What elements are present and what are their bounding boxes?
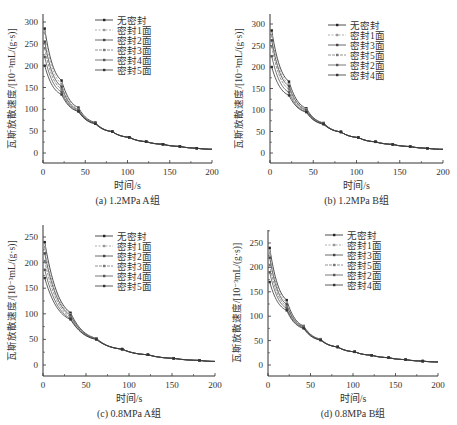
data-point-marker — [60, 79, 62, 81]
chart-b: 050100150200050100150200250300时间/s瓦斯放散速度… — [228, 0, 457, 212]
legend-entry: 密封4面 — [350, 70, 385, 81]
data-point-marker — [44, 252, 46, 254]
data-point-marker — [288, 85, 290, 87]
legend-entry: 无密封 — [350, 20, 380, 31]
legend-entry: 密封2面 — [117, 35, 152, 46]
legend-entry: 密封1面 — [350, 30, 385, 41]
data-point-marker — [409, 145, 411, 147]
y-tick-label: 250 — [25, 232, 39, 242]
legend-entry: 密封2面 — [347, 270, 382, 281]
x-tick-label: 200 — [431, 380, 445, 390]
data-point-marker — [269, 281, 271, 283]
data-point-marker — [43, 47, 45, 49]
y-tick-label: 200 — [252, 62, 266, 72]
data-point-marker — [320, 339, 322, 341]
data-point-marker — [422, 360, 424, 362]
data-point-marker — [269, 256, 271, 258]
data-point-marker — [288, 80, 290, 82]
y-tick-label: 150 — [250, 287, 264, 297]
data-point-marker — [269, 247, 271, 249]
data-point-marker — [269, 252, 271, 254]
data-point-marker — [388, 356, 390, 358]
data-point-marker — [305, 111, 307, 113]
chart-a: 050100150200050100150200250300时间/s瓦斯放散速度… — [0, 0, 228, 212]
data-point-marker — [303, 327, 305, 329]
y-tick-label: 250 — [252, 41, 266, 51]
x-tick-label: 200 — [436, 167, 450, 177]
y-tick-label: 250 — [250, 238, 264, 248]
x-tick-label: 100 — [122, 380, 136, 390]
y-tick-label: 100 — [25, 104, 39, 114]
x-tick-label: 200 — [208, 380, 222, 390]
x-tick-label: 0 — [266, 380, 271, 390]
data-point-marker — [111, 130, 113, 132]
data-point-marker — [60, 83, 62, 85]
x-tick-label: 50 — [81, 167, 91, 177]
data-point-marker — [288, 94, 290, 96]
panel-caption: (d) 0.8MPa B组 — [321, 407, 386, 420]
legend-entry: 密封2面 — [350, 60, 385, 71]
data-point-marker — [354, 351, 356, 353]
y-tick-label: 50 — [29, 334, 39, 344]
x-tick-label: 100 — [346, 380, 360, 390]
y-tick-label: 50 — [29, 126, 39, 136]
y-axis-label: 瓦斯放散速度/[10⁻³mL/(g·s)] — [6, 240, 18, 360]
chart-panel-b: 050100150200050100150200250300时间/s瓦斯放散速度… — [228, 0, 457, 212]
y-tick-label: 150 — [25, 283, 39, 293]
data-point-marker — [286, 299, 288, 301]
legend-entry: 密封5面 — [117, 281, 152, 292]
data-point-marker — [145, 140, 147, 142]
data-point-marker — [43, 56, 45, 58]
data-point-marker — [288, 88, 290, 90]
data-point-marker — [44, 241, 46, 243]
y-tick-label: 100 — [25, 309, 39, 319]
legend-entry: 密封1面 — [117, 241, 152, 252]
legend-entry: 密封4面 — [347, 280, 382, 291]
data-point-marker — [405, 358, 407, 360]
legend-entry: 密封3面 — [117, 45, 152, 56]
data-point-marker — [43, 40, 45, 42]
legend: 无密封密封1面密封3面密封5面密封2面密封4面 — [325, 230, 382, 291]
chart-c: 050100150200050100150200250时间/s瓦斯放散速度/[1… — [0, 212, 228, 425]
data-point-marker — [196, 147, 198, 149]
data-point-marker — [271, 45, 273, 47]
y-tick-label: 0 — [34, 148, 39, 158]
data-point-marker — [286, 309, 288, 311]
data-point-marker — [173, 357, 175, 359]
data-point-marker — [340, 131, 342, 133]
y-tick-label: 100 — [252, 105, 266, 115]
data-point-marker — [60, 85, 62, 87]
x-tick-label: 0 — [41, 167, 46, 177]
data-point-marker — [162, 143, 164, 145]
data-point-marker — [322, 123, 324, 125]
y-tick-label: 0 — [34, 360, 39, 370]
x-tick-label: 0 — [268, 167, 273, 177]
data-point-marker — [374, 141, 376, 143]
x-tick-label: 150 — [163, 167, 177, 177]
x-tick-label: 100 — [350, 167, 364, 177]
x-tick-label: 150 — [393, 167, 407, 177]
chart-panel-c: 050100150200050100150200250时间/s瓦斯放散速度/[1… — [0, 212, 228, 425]
data-point-marker — [44, 246, 46, 248]
x-tick-label: 150 — [389, 380, 403, 390]
y-tick-label: 0 — [259, 360, 264, 370]
data-point-marker — [60, 93, 62, 95]
data-point-marker — [271, 39, 273, 41]
x-axis-label: 时间/s — [343, 179, 370, 191]
x-tick-label: 50 — [306, 380, 316, 390]
y-tick-label: 100 — [250, 311, 264, 321]
panel-caption: (a) 1.2MPa A组 — [95, 194, 159, 207]
panel-caption: (b) 1.2MPa B组 — [324, 194, 389, 207]
data-point-marker — [121, 348, 123, 350]
y-tick-label: 250 — [25, 39, 39, 49]
y-tick-label: 200 — [250, 262, 264, 272]
legend: 无密封密封1面密封3面密封5面密封2面密封4面 — [328, 20, 385, 81]
y-tick-label: 300 — [252, 19, 266, 29]
data-point-marker — [95, 338, 97, 340]
data-point-marker — [60, 91, 62, 93]
data-point-marker — [392, 143, 394, 145]
data-point-marker — [179, 145, 181, 147]
legend-entry: 无密封 — [347, 230, 377, 241]
data-point-marker — [43, 64, 45, 66]
data-point-marker — [44, 277, 46, 279]
